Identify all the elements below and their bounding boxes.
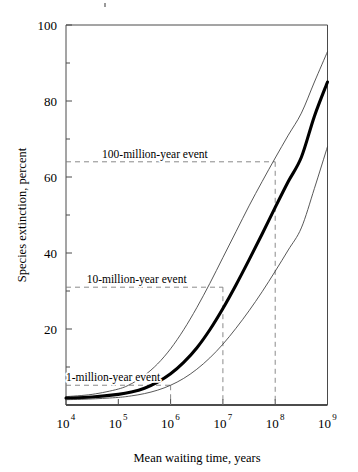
x-tick-exponent: 8	[280, 412, 285, 422]
extinction-figure: 100-million-year event100-million-year e…	[0, 0, 358, 472]
x-axis-title: Mean waiting time, years	[133, 451, 260, 465]
x-tick-exponent: 7	[228, 412, 233, 422]
y-axis-title: Species extinction, percent	[15, 147, 29, 282]
y-tick-label: 80	[44, 94, 57, 109]
x-axis-tick-labels: 104105106107108109	[57, 412, 338, 431]
y-tick-label: 60	[44, 170, 57, 185]
x-tick-base: 10	[318, 416, 331, 431]
y-tick-label: 40	[44, 246, 57, 261]
y-axis-ticks	[66, 25, 72, 405]
x-tick-base: 10	[57, 416, 70, 431]
y-tick-label: 100	[38, 18, 58, 33]
x-tick-exponent: 9	[332, 412, 337, 422]
x-axis-ticks	[66, 399, 328, 405]
curve-best-estimate	[66, 82, 328, 398]
x-tick-exponent: 6	[175, 412, 180, 422]
annotation-labels: 100-million-year event100-million-year e…	[66, 148, 209, 384]
curve-group	[66, 52, 328, 400]
annotation-label: 1-million-year event	[66, 371, 161, 384]
x-tick-base: 10	[213, 416, 226, 431]
curve-upper-bound	[66, 52, 328, 397]
y-tick-label: 20	[44, 322, 57, 337]
x-tick-base: 10	[161, 416, 174, 431]
species-extinction-chart: 100-million-year event100-million-year e…	[0, 0, 358, 472]
annotation-label: 10-million-year event	[87, 273, 188, 286]
x-tick-exponent: 4	[71, 412, 76, 422]
x-tick-base: 10	[109, 416, 122, 431]
x-tick-base: 10	[266, 416, 279, 431]
x-tick-exponent: 5	[123, 412, 128, 422]
annotation-label: 100-million-year event	[102, 148, 209, 161]
y-axis-tick-labels: 20406080100	[38, 18, 58, 337]
